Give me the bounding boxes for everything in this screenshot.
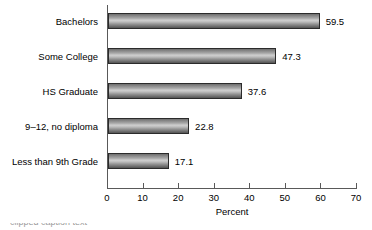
bar — [108, 83, 242, 99]
x-axis-tick — [356, 183, 357, 188]
bar-row: Less than 9th Grade17.1 — [0, 153, 372, 169]
x-axis-tick-label: 0 — [104, 192, 109, 203]
x-axis-tick-label: 30 — [208, 192, 219, 203]
bar-row: Some College47.3 — [0, 48, 372, 64]
bar-value-label: 17.1 — [175, 156, 194, 167]
category-label: Bachelors — [56, 16, 98, 27]
bar-row: Bachelors59.5 — [0, 13, 372, 29]
x-axis-title: Percent — [216, 206, 249, 217]
x-axis-tick-label: 50 — [280, 192, 291, 203]
x-axis-tick-label: 20 — [173, 192, 184, 203]
bar — [108, 153, 169, 169]
category-label: Less than 9th Grade — [12, 156, 98, 167]
bar-value-label: 37.6 — [248, 86, 267, 97]
x-axis-tick — [107, 183, 108, 188]
plot-area: Bachelors59.5Some College47.3HS Graduate… — [0, 0, 372, 230]
category-label: Some College — [38, 51, 98, 62]
bar-value-label: 59.5 — [326, 16, 345, 27]
bar — [108, 118, 189, 134]
bar-chart: Bachelors59.5Some College47.3HS Graduate… — [0, 0, 372, 230]
bar — [108, 13, 320, 29]
x-axis-tick-label: 70 — [351, 192, 362, 203]
category-label: HS Graduate — [43, 86, 98, 97]
x-axis-tick — [143, 183, 144, 188]
bar — [108, 48, 276, 64]
bar-row: 9–12, no diploma22.8 — [0, 118, 372, 134]
x-axis-tick-label: 40 — [244, 192, 255, 203]
x-axis-tick — [214, 183, 215, 188]
category-label: 9–12, no diploma — [25, 121, 98, 132]
x-axis-tick — [178, 183, 179, 188]
x-axis-tick-label: 10 — [137, 192, 148, 203]
bar-value-label: 22.8 — [195, 121, 214, 132]
x-axis-tick — [249, 183, 250, 188]
clipped-caption: clipped caption text — [10, 223, 362, 230]
x-axis-tick — [320, 183, 321, 188]
bar-row: HS Graduate37.6 — [0, 83, 372, 99]
bar-value-label: 47.3 — [282, 51, 301, 62]
x-axis-line — [107, 188, 357, 189]
clipped-caption-text: clipped caption text — [10, 223, 87, 228]
x-axis-tick-label: 60 — [315, 192, 326, 203]
x-axis-tick — [285, 183, 286, 188]
